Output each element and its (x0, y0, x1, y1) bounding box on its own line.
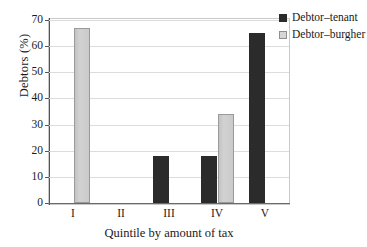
y-tick-mark (45, 203, 49, 204)
x-tick-label: IV (211, 208, 223, 220)
legend-label-burgher: Debtor–burgher (292, 29, 365, 41)
x-tick-label: I (71, 208, 75, 220)
y-tick-mark (45, 20, 49, 21)
y-tick-mark (45, 177, 49, 178)
y-tick-mark (45, 98, 49, 99)
chart-legend: Debtor–tenant Debtor–burgher (279, 9, 367, 43)
y-tick-mark (45, 72, 49, 73)
bar (201, 156, 217, 203)
y-tick-label: 0 (37, 197, 43, 209)
plot-area: 010203040506070IIIIIIIVV (48, 18, 290, 205)
y-tick-mark (45, 46, 49, 47)
y-tick-label: 40 (32, 93, 44, 105)
legend-swatch-icon-burgher (279, 31, 287, 39)
x-tick-label: II (117, 208, 125, 220)
y-tick-mark (45, 125, 49, 126)
y-axis-title: Debtors (%) (17, 6, 32, 126)
bar (249, 33, 265, 203)
bar (218, 114, 234, 203)
bar (74, 28, 90, 203)
bar-chart-figure: Debtors (%) 010203040506070IIIIIIIVV Qui… (0, 0, 367, 247)
y-tick-label: 30 (32, 119, 44, 131)
legend-item-debtor-burgher: Debtor–burgher (279, 26, 367, 43)
gridline (49, 20, 289, 21)
y-tick-label: 20 (32, 145, 44, 157)
x-axis-title: Quintile by amount of tax (48, 226, 290, 241)
x-tick-label: V (261, 208, 269, 220)
legend-item-debtor-tenant: Debtor–tenant (279, 9, 367, 26)
bar (153, 156, 169, 203)
x-tick-label: III (163, 208, 175, 220)
y-tick-mark (45, 151, 49, 152)
legend-label-tenant: Debtor–tenant (292, 12, 358, 24)
y-tick-label: 60 (32, 40, 44, 52)
legend-swatch-icon-tenant (279, 14, 287, 22)
y-tick-label: 10 (32, 171, 44, 183)
y-tick-label: 70 (32, 14, 44, 26)
y-tick-label: 50 (32, 67, 44, 79)
